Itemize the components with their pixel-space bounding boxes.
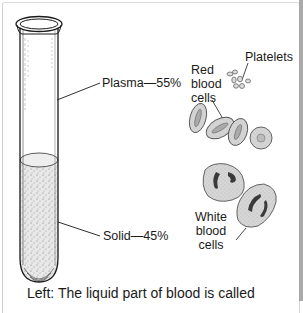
rbc-label: Red blood cells xyxy=(191,63,222,105)
figure-caption: Left: The liquid part of blood is called xyxy=(27,285,255,301)
test-tube xyxy=(16,17,62,283)
platelets xyxy=(227,70,251,89)
red-blood-cells xyxy=(186,101,272,149)
solid-surface xyxy=(20,153,58,167)
solid-layer xyxy=(20,160,58,282)
platelets-leader xyxy=(242,63,248,80)
platelets-label: Platelets xyxy=(245,50,293,64)
wbc-label: White blood cells xyxy=(195,210,227,252)
plasma-leader xyxy=(57,83,100,100)
solid-leader xyxy=(58,222,100,236)
wbc-leader xyxy=(236,228,246,240)
plasma-label: Plasma—55% xyxy=(102,76,181,90)
solid-label: Solid—45% xyxy=(103,229,168,243)
